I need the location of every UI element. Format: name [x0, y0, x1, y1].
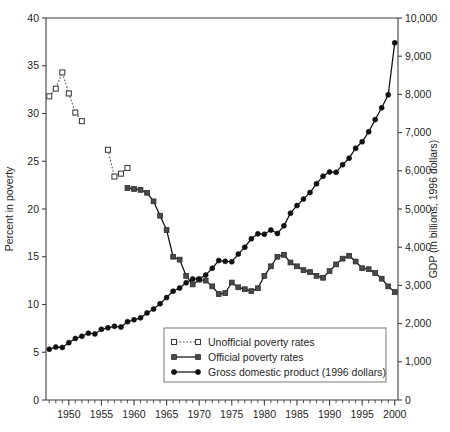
series-2-point-1973 — [216, 258, 221, 263]
series-1-point-1990 — [327, 269, 332, 274]
series-1-point-1966 — [171, 254, 176, 259]
series-2-point-1975 — [229, 259, 234, 264]
series-0-seg1-point-1958 — [118, 171, 123, 176]
series-1-point-1977 — [242, 287, 247, 292]
series-1-point-1988 — [314, 273, 319, 278]
y-tick-label-right-10000: 10,000 — [405, 12, 437, 24]
series-2-point-1948 — [53, 345, 58, 350]
series-2-point-1979 — [255, 231, 260, 236]
y-tick-label-left-30: 30 — [27, 107, 39, 119]
series-2-point-1964 — [158, 301, 163, 306]
y-axis-title-right: GDP (in billions, 1996 dollars) — [427, 140, 439, 279]
y-tick-label-left-5: 5 — [33, 346, 39, 358]
series-1-point-1999 — [386, 284, 391, 289]
series-2-point-1959 — [125, 319, 130, 324]
y-tick-label-right-2000: 2,000 — [405, 317, 431, 329]
y-axis-title-left: Percent in poverty — [3, 166, 15, 251]
series-2-point-1950 — [66, 340, 71, 345]
series-2-point-1985 — [294, 203, 299, 208]
x-tick-label-1995: 1995 — [350, 408, 374, 420]
x-tick-label-1980: 1980 — [253, 408, 277, 420]
series-2-point-1955 — [99, 327, 104, 332]
legend-swatch-marker-0-1 — [196, 340, 201, 345]
x-tick-label-1990: 1990 — [318, 408, 342, 420]
series-1-point-1980 — [262, 273, 267, 278]
series-2-line — [49, 43, 394, 349]
series-2-point-1974 — [223, 259, 228, 264]
series-2-point-1961 — [138, 315, 143, 320]
series-2-point-1991 — [334, 170, 339, 175]
series-1-point-1994 — [353, 259, 358, 264]
series-2-point-1977 — [242, 245, 247, 250]
series-2-point-1971 — [203, 273, 208, 278]
series-1-point-1972 — [210, 284, 215, 289]
legend-swatch-marker-1-1 — [196, 355, 201, 360]
y-tick-label-left-25: 25 — [27, 155, 39, 167]
series-0-seg0-point-1952 — [79, 119, 84, 124]
series-2-point-2000 — [392, 40, 397, 45]
y-tick-label-right-9000: 9,000 — [405, 50, 431, 62]
series-1-point-1978 — [249, 289, 254, 294]
series-1-point-1981 — [268, 264, 273, 269]
series-2-point-1967 — [177, 286, 182, 291]
series-1-point-1965 — [164, 228, 169, 233]
series-0-seg0-point-1950 — [66, 91, 71, 96]
series-2-point-1999 — [386, 92, 391, 97]
poverty-gdp-chart: 051015202530354001,0002,0003,0004,0005,0… — [0, 0, 450, 432]
x-tick-label-1975: 1975 — [220, 408, 244, 420]
series-2-point-1969 — [190, 276, 195, 281]
y-tick-label-right-7000: 7,000 — [405, 126, 431, 138]
series-1-point-1975 — [229, 280, 234, 285]
series-2-point-1990 — [327, 169, 332, 174]
series-2-point-1987 — [308, 190, 313, 195]
series-2-point-1982 — [275, 231, 280, 236]
y-tick-label-left-10: 10 — [27, 298, 39, 310]
series-1-point-1971 — [203, 278, 208, 283]
series-1-point-1963 — [151, 199, 156, 204]
y-tick-label-right-1000: 1,000 — [405, 355, 431, 367]
x-tick-label-2000: 2000 — [383, 408, 407, 420]
x-tick-label-1985: 1985 — [285, 408, 309, 420]
legend-label-0: Unofficial poverty rates — [208, 336, 315, 348]
y-tick-label-right-8000: 8,000 — [405, 88, 431, 100]
series-2-point-1983 — [281, 223, 286, 228]
legend-label-2: Gross domestic product (1996 dollars) — [208, 366, 386, 378]
series-1-point-1976 — [236, 285, 241, 290]
series-1-point-1979 — [255, 286, 260, 291]
x-tick-label-1965: 1965 — [155, 408, 179, 420]
series-1-point-1986 — [301, 268, 306, 273]
series-2-point-1972 — [210, 266, 215, 271]
series-0-seg0-point-1949 — [60, 70, 65, 75]
series-1-point-1959 — [125, 186, 130, 191]
series-2-point-1981 — [268, 228, 273, 233]
series-2-point-1976 — [236, 252, 241, 257]
series-0-seg1-point-1957 — [112, 174, 117, 179]
y-tick-label-left-0: 0 — [33, 394, 39, 406]
series-1-point-1982 — [275, 254, 280, 259]
series-1-point-1968 — [184, 273, 189, 278]
series-2-point-1965 — [164, 295, 169, 300]
series-2-point-1978 — [249, 236, 254, 241]
series-1-point-2000 — [392, 290, 397, 295]
series-2-point-1951 — [73, 336, 78, 341]
chart-container: 051015202530354001,0002,0003,0004,0005,0… — [0, 0, 450, 432]
series-2-point-1949 — [60, 345, 65, 350]
series-1-point-1989 — [321, 275, 326, 280]
series-1-point-1969 — [190, 282, 195, 287]
series-1-point-1992 — [340, 256, 345, 261]
series-1-point-1991 — [334, 262, 339, 267]
series-1-point-1996 — [366, 267, 371, 272]
series-2-point-1956 — [105, 325, 110, 330]
series-2-point-1968 — [184, 280, 189, 285]
y-tick-label-left-15: 15 — [27, 250, 39, 262]
series-0-seg1-point-1959 — [125, 165, 130, 170]
series-2-point-1988 — [314, 181, 319, 186]
series-0-seg1-line — [108, 150, 128, 177]
series-1-point-1993 — [347, 253, 352, 258]
series-1-point-1985 — [295, 264, 300, 269]
y-tick-label-left-20: 20 — [27, 203, 39, 215]
x-tick-label-1950: 1950 — [57, 408, 81, 420]
x-tick-label-1955: 1955 — [90, 408, 114, 420]
series-2-point-1962 — [145, 310, 150, 315]
series-2-point-1996 — [366, 129, 371, 134]
